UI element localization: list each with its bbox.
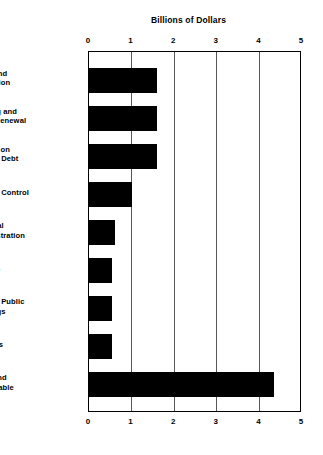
category-label: General PublicBuildings xyxy=(0,297,90,316)
category-label: Libraries xyxy=(0,340,90,350)
bar xyxy=(89,296,112,321)
category-label-line: Libraries xyxy=(0,340,90,350)
category-label-line: General Public xyxy=(0,297,90,307)
bar xyxy=(89,68,157,93)
category-label-line: General Control xyxy=(0,188,90,198)
gridline-2 xyxy=(174,52,175,411)
plot-area xyxy=(88,51,301,412)
category-label-line: Housing and xyxy=(0,107,90,117)
chart-title: Billions of Dollars xyxy=(0,15,323,25)
bar xyxy=(89,182,132,207)
gridline-3 xyxy=(216,52,217,411)
category-label: Airports xyxy=(0,264,90,274)
bar xyxy=(89,220,115,245)
x-tick-top-5: 5 xyxy=(299,36,303,45)
bar-chart: Billions of Dollars 012345 012345 Parks … xyxy=(0,0,323,455)
category-label-line: Financial xyxy=(0,221,90,231)
category-label-line: Recreation xyxy=(0,78,90,88)
category-label: Parks andRecreation xyxy=(0,69,90,88)
category-label-line: Urban Renewal xyxy=(0,116,90,126)
x-tick-top-1: 1 xyxy=(128,36,132,45)
x-tick-top-3: 3 xyxy=(214,36,218,45)
category-label-line: Administration xyxy=(0,231,90,241)
category-label-line: General Debt xyxy=(0,154,90,164)
category-label-line: Unallocable xyxy=(0,383,90,393)
category-label-line: Other and xyxy=(0,373,90,383)
category-label: Interest onGeneral Debt xyxy=(0,145,90,164)
category-label-line: Parks and xyxy=(0,69,90,79)
category-label: FinancialAdministration xyxy=(0,221,90,240)
gridline-4 xyxy=(259,52,260,411)
category-label-line: Buildings xyxy=(0,307,90,317)
bar xyxy=(89,372,274,397)
bar xyxy=(89,106,157,131)
bar xyxy=(89,258,112,283)
x-tick-bottom-0: 0 xyxy=(86,417,90,426)
x-tick-bottom-2: 2 xyxy=(171,417,175,426)
category-label: General Control xyxy=(0,188,90,198)
x-tick-bottom-4: 4 xyxy=(256,417,260,426)
category-label-line: Interest on xyxy=(0,145,90,155)
x-tick-bottom-1: 1 xyxy=(128,417,132,426)
bar xyxy=(89,144,157,169)
x-tick-top-4: 4 xyxy=(256,36,260,45)
x-tick-top-2: 2 xyxy=(171,36,175,45)
category-label-line: Airports xyxy=(0,264,90,274)
x-tick-bottom-3: 3 xyxy=(214,417,218,426)
category-label: Other andUnallocable xyxy=(0,373,90,392)
x-tick-top-0: 0 xyxy=(86,36,90,45)
x-tick-bottom-5: 5 xyxy=(299,417,303,426)
bar xyxy=(89,334,112,359)
category-label: Housing andUrban Renewal xyxy=(0,107,90,126)
